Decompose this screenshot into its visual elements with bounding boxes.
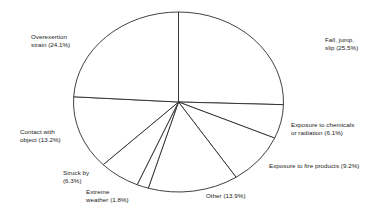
pie-label-line: Contact with (20, 128, 61, 136)
pie-label-line: (6.3%) (63, 177, 89, 185)
pie-label-line: Fall, jump, (325, 36, 358, 44)
pie-label-line: slip (25.5%) (325, 44, 358, 52)
pie-label-exposure-fire-products: Exposure to fire products (9.2%) (269, 162, 359, 170)
pie-slice-overexertion-strain[interactable] (74, 12, 179, 102)
pie-label-struck-by: Struck by(6.3%) (63, 169, 89, 186)
pie-label-exposure-chemicals-radiation: Exposure to chemicalsor radiation (6.1%) (291, 121, 354, 138)
pie-label-line: Extreme (86, 188, 129, 196)
pie-chart: Fall, jump,slip (25.5%)Exposure to chemi… (0, 0, 389, 220)
pie-label-line: or radiation (6.1%) (291, 129, 354, 137)
pie-label-overexertion-strain: Overexertionstrain (24.1%) (31, 33, 70, 50)
pie-label-fall-jump-slip: Fall, jump,slip (25.5%) (325, 36, 358, 53)
pie-label-other: Other (13.9%) (206, 192, 246, 200)
pie-label-line: Struck by (63, 169, 89, 177)
pie-slice-fall-jump-slip[interactable] (179, 12, 284, 105)
pie-label-line: Exposure to fire products (9.2%) (269, 162, 359, 170)
pie-label-line: Overexertion (31, 33, 70, 41)
pie-label-line: Other (13.9%) (206, 192, 246, 200)
pie-label-contact-with-object: Contact withobject (13.2%) (20, 128, 61, 145)
pie-label-line: Exposure to chemicals (291, 121, 354, 129)
pie-label-extreme-weather: Extremeweather (1.8%) (86, 188, 129, 205)
pie-label-line: weather (1.8%) (86, 196, 129, 204)
pie-label-line: object (13.2%) (20, 136, 61, 144)
pie-label-line: strain (24.1%) (31, 41, 70, 49)
